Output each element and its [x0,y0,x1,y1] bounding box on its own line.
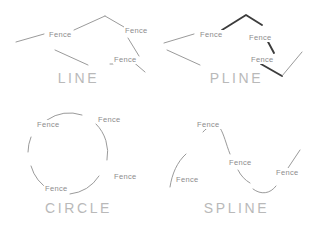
panel-circle: CIRCLE [0,112,157,227]
pline-bold-peak [222,15,262,30]
pline-thin-segment-b [167,50,200,65]
line-segment-d [128,38,139,56]
spline-seg-descend [220,128,230,154]
line-segment-b [74,16,105,30]
line-segment-c [105,16,124,27]
circle-arc-right-lower [70,176,99,194]
circle-arc-top [47,113,82,120]
caption-line: LINE [0,70,157,86]
pline-thin-segment-a [164,34,194,43]
fence-label: Fence [175,175,200,184]
fence-label: Fence [44,184,69,193]
fence-label: Fence [248,33,273,42]
fence-label: Fence [228,158,253,167]
pline-geometry [158,0,315,115]
fence-label: Fence [113,172,138,181]
fence-label: Fence [97,115,122,124]
caption-circle: CIRCLE [0,200,157,216]
line-segment-e [55,50,88,65]
fence-object-types-figure: LINE PLINE [0,0,315,231]
fence-label: Fence [275,168,300,177]
fence-label: Fence [36,120,61,129]
circle-arc-right-upper [96,124,108,160]
fence-label: Fence [199,30,224,39]
circle-arc-left-upper [28,137,31,152]
fence-label: Fence [250,55,275,64]
spline-seg-descend-lower [238,170,250,183]
spline-seg-rise-right [288,150,300,168]
fence-label: Fence [124,26,149,35]
caption-pline: PLINE [158,70,315,86]
caption-spline: SPLINE [158,200,315,216]
panel-pline: PLINE [158,0,315,115]
fence-label: Fence [113,55,138,64]
line-segment-a [16,34,44,42]
spline-seg-valley [253,186,276,193]
fence-label: Fence [196,120,221,129]
fence-label: Fence [48,30,73,39]
